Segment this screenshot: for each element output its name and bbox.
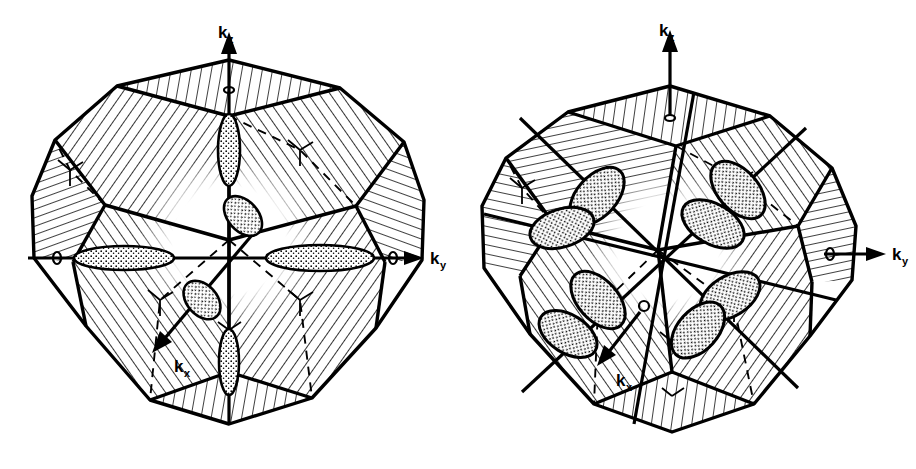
right-zone-body: k z k y k x [482, 21, 909, 432]
ky-axis-sublabel: y [440, 259, 447, 271]
kx-axis-sublabel-r: x [626, 381, 633, 393]
valley-plus-ky [266, 245, 374, 271]
kz-axis-sublabel-r: z [669, 31, 675, 43]
edge-right-low-r [810, 282, 812, 336]
ky-arrowhead-r [866, 247, 886, 261]
kz-axis-label-r: k [659, 21, 669, 40]
brillouin-zone-figure: k z k y k x [0, 0, 916, 469]
kx-axis-label-r: k [616, 371, 626, 390]
many-valley-100-panel: k z k y k x [0, 0, 458, 469]
kz-axis-label: k [218, 23, 228, 42]
ky-axis-label-r: k [892, 245, 902, 264]
kz-axis-sublabel: z [228, 33, 234, 45]
right-zone-svg: k z k y k x [458, 0, 916, 469]
ky-axis-sublabel-r: y [902, 255, 909, 267]
left-zone-body: k z k y k x [28, 23, 447, 425]
valley-minus-kz [219, 329, 239, 395]
valley-plus-kz [218, 114, 240, 186]
valley-minus-ky [74, 246, 174, 270]
left-zone-svg: k z k y k x [0, 0, 458, 469]
kx-axis-label: k [174, 357, 184, 376]
many-valley-111-panel: k z k y k x [458, 0, 916, 469]
ky-axis-label: k [430, 249, 440, 268]
kx-axis-sublabel: x [184, 367, 191, 379]
